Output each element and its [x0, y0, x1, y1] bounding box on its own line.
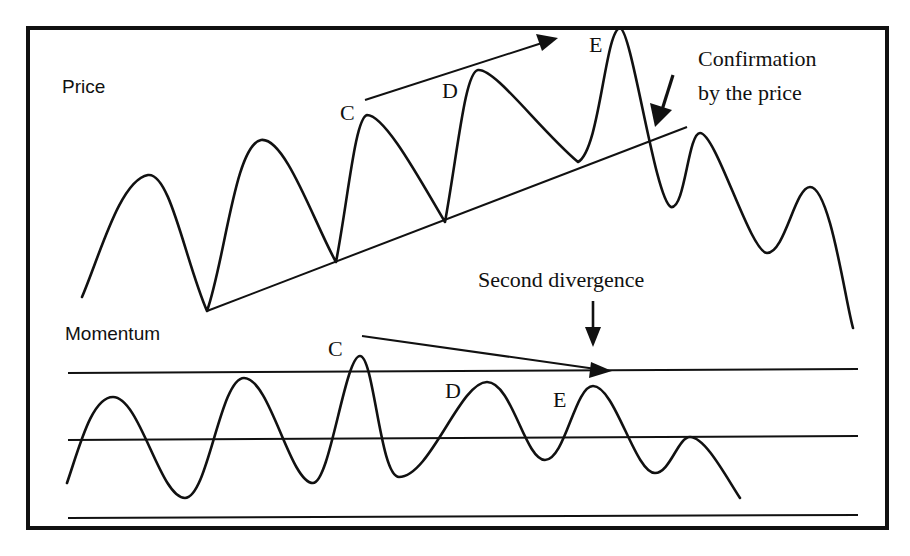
momentum-point-d-label: D	[445, 378, 461, 403]
second-divergence-label: Second divergence	[478, 267, 644, 292]
momentum-peak-arrowhead-icon	[589, 362, 612, 378]
confirmation-label-line1: Confirmation	[698, 46, 817, 71]
momentum-panel-label: Momentum	[65, 323, 160, 344]
momentum-lower-line	[68, 515, 858, 518]
price-line	[82, 28, 853, 328]
price-point-e-label: E	[589, 32, 602, 57]
confirmation-label-line2: by the price	[698, 80, 802, 105]
price-point-c-label: C	[340, 100, 355, 125]
price-peak-arrowhead-icon	[536, 34, 558, 51]
momentum-peak-arrow-line	[362, 336, 596, 369]
momentum-upper-line	[68, 369, 858, 373]
momentum-middle-line	[68, 436, 858, 440]
momentum-point-e-label: E	[553, 387, 566, 412]
price-point-d-label: D	[442, 78, 458, 103]
price-panel-label: Price	[62, 76, 105, 97]
second-divergence-arrowhead-icon	[585, 327, 601, 347]
momentum-line	[67, 356, 740, 498]
confirmation-arrow-line	[662, 75, 673, 110]
divergence-diagram: Price C D E Confirmation by the price Mo…	[0, 0, 910, 556]
momentum-point-c-label: C	[328, 336, 343, 361]
confirmation-arrowhead-icon	[650, 103, 672, 127]
